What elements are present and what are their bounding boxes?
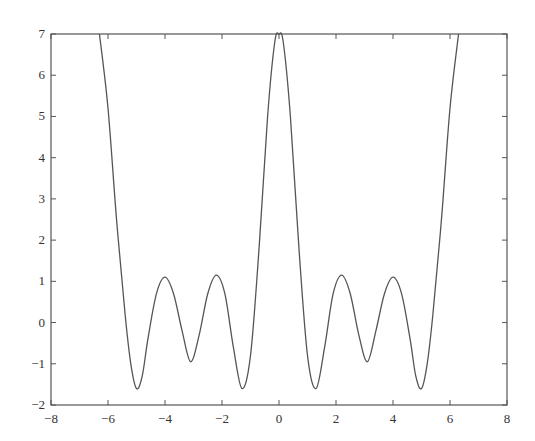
x-tick-label: 8 [504, 411, 511, 426]
x-tick-label: 0 [276, 411, 283, 426]
data-series-curve [99, 33, 458, 389]
x-tick-label: −6 [101, 411, 115, 426]
y-tick-label: 7 [39, 26, 46, 41]
y-tick-label: 3 [39, 191, 46, 206]
y-tick-label: 4 [39, 150, 46, 165]
plot-frame [51, 34, 507, 405]
x-tick-label: −2 [215, 411, 229, 426]
x-tick-label: −8 [44, 411, 58, 426]
y-tick-label: 5 [39, 108, 46, 123]
x-tick-label: −4 [158, 411, 172, 426]
y-tick-label: −1 [31, 356, 45, 371]
axis-ticks [51, 34, 507, 405]
x-tick-label: 2 [333, 411, 340, 426]
x-tick-label: 4 [390, 411, 397, 426]
y-tick-label: 2 [39, 232, 46, 247]
y-tick-label: 0 [39, 315, 46, 330]
y-tick-label: 6 [39, 67, 46, 82]
y-tick-label: 1 [39, 273, 46, 288]
x-tick-label: 6 [447, 411, 454, 426]
y-tick-label: −2 [31, 397, 45, 412]
line-chart: −8−6−4−202468−2−101234567 [0, 0, 535, 441]
